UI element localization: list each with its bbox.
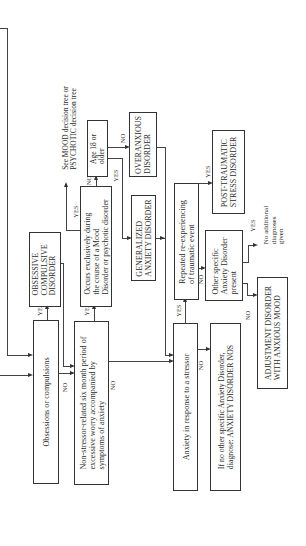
connector (66, 230, 80, 231)
node-overanxious: OVERANXIOUS DISORDER (129, 112, 157, 177)
node-ptsd-text: POST-TRAUMATIC STRESS DISORDER (220, 137, 237, 207)
node-obsessions-text: Obsessions or compulsions (42, 357, 51, 446)
label-yes: YES (72, 205, 79, 217)
node-nos: If no other specific Anxiety Disorder, d… (210, 323, 241, 491)
label-yes: YES (204, 165, 211, 177)
node-obsessions: Obsessions or compulsions (33, 320, 59, 484)
node-nonstressor-text: Non-stressor-related six month period of… (78, 336, 105, 469)
connector (243, 262, 249, 263)
connector (248, 245, 249, 262)
node-ocd: OBSESSIVE COMPULSIVE DISORDER (29, 232, 61, 307)
connector (108, 147, 126, 148)
label-no: NO (109, 381, 116, 390)
label-no: NO (85, 176, 92, 185)
label-yes: YES (175, 304, 182, 316)
node-ptsd: POST-TRAUMATIC STRESS DISORDER (212, 130, 245, 214)
node-other-specific-text: Other specific Anxiety Disorder present (211, 237, 238, 294)
node-occurs-text: Occurs exclusively during the course of … (83, 199, 110, 294)
node-adjustment: ADJUSTMENT DISORDER WITH ANXIOUS MOOD (257, 277, 288, 389)
connector (108, 158, 122, 159)
node-overanxious-text: OVERANXIOUS DISORDER (135, 116, 152, 174)
label-no: NO (244, 311, 251, 320)
node-occurs: Occurs exclusively during the course of … (80, 186, 112, 307)
label-no: NO (197, 361, 204, 370)
entry-line-second (0, 375, 29, 376)
label-no: NO (119, 134, 126, 143)
node-ocd-text: OBSESSIVE COMPULSIVE DISORDER (32, 244, 58, 295)
node-stressor-text: Anxiety in response to a stressor (181, 354, 190, 461)
entry-line-to-obsessions (7, 355, 29, 356)
connector (66, 186, 67, 230)
connector (185, 300, 186, 323)
label-yes: YES (112, 169, 119, 181)
connector (165, 147, 166, 355)
entry-line-vertical (7, 28, 8, 355)
arrow-icon (160, 236, 165, 240)
node-gad: GENERALIZED ANXIETY DISORDER (131, 195, 156, 281)
node-other-specific: Other specific Anxiety Disorder present (205, 230, 243, 301)
connector (247, 283, 248, 295)
see-mood-reference: See MOOD decision tree or PSYCHOTIC deci… (62, 78, 78, 178)
node-age: Age 18 or older (87, 120, 108, 177)
connector (94, 307, 95, 321)
connector (109, 361, 170, 362)
node-stressor: Anxiety in response to a stressor (173, 323, 198, 491)
node-gad-text: GENERALIZED ANXIETY DISORDER (135, 199, 152, 276)
no-additional-text: No additional diagnoses given (263, 206, 286, 244)
node-nonstressor: Non-stressor-related six month period of… (74, 321, 109, 485)
node-adjustment-text: ADJUSTMENT DISORDER WITH ANXIOUS MOOD (264, 286, 281, 380)
node-reexperiencing-text: Repeated re-experiencing of traumatic ev… (178, 200, 196, 284)
arrow-icon (64, 182, 68, 187)
node-reexperiencing: Repeated re-experiencing of traumatic ev… (174, 183, 199, 300)
node-nos-text: If no other specific Anxiety Disorder, d… (217, 345, 235, 469)
no-additional-diagnoses: No additional diagnoses given (258, 205, 290, 245)
label-no: NO (61, 383, 68, 392)
see-mood-text: See MOOD decision tree or PSYCHOTIC deci… (62, 86, 78, 170)
label-no: NO (197, 275, 204, 284)
connector (122, 158, 123, 238)
node-age-text: Age 18 or older (90, 134, 106, 164)
label-yes: YES (249, 219, 256, 231)
connector (63, 263, 64, 366)
